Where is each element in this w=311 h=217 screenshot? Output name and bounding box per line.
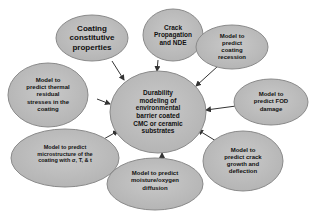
center-label: Durability modeling of environmental bar… — [133, 89, 183, 135]
node-crack-growth: Model to predict crack growth and deflec… — [203, 131, 283, 191]
node-thermal-residual: Model to predict thermal residual stress… — [8, 63, 88, 127]
node-label: Model to predict coating recession — [218, 33, 246, 61]
node-coating-constitutive: Coating constitutive properties — [56, 15, 128, 61]
node-label: Crack Propagation and NDE — [154, 24, 192, 47]
node-crack-propagation: Crack Propagation and NDE — [143, 9, 203, 61]
node-label: Model to predict microstructure of the c… — [37, 144, 92, 163]
node-label: Model to predict crack growth and deflec… — [224, 147, 261, 175]
node-label: Model to predict FOD damage — [254, 91, 288, 112]
node-label: Model to predict moisture/oxygen diffusi… — [131, 170, 179, 191]
node-moisture-diffusion: Model to predict moisture/oxygen diffusi… — [107, 158, 203, 204]
node-coating-recession: Model to predict coating recession — [196, 25, 268, 69]
node-label: Model to predict thermal residual stress… — [26, 77, 69, 112]
node-label: Coating constitutive properties — [70, 24, 115, 52]
node-fod-damage: Model to predict FOD damage — [234, 79, 308, 125]
center-node: Durability modeling of environmental bar… — [110, 71, 206, 153]
node-microstructure: Model to predict microstructure of the c… — [11, 129, 119, 179]
